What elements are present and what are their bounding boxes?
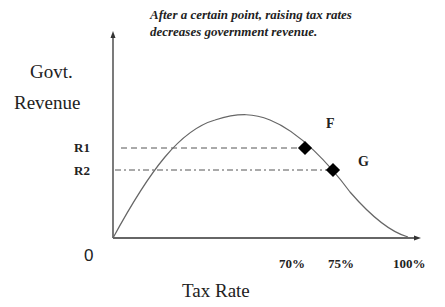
laffer-curve-chart: After a certain point, raising tax rates…	[0, 0, 445, 307]
x-axis-arrow-icon	[414, 236, 421, 241]
laffer-curve	[113, 115, 408, 238]
plot-area	[0, 0, 445, 307]
y-axis-arrow-icon	[111, 31, 116, 38]
point-f-marker-icon	[298, 141, 312, 155]
